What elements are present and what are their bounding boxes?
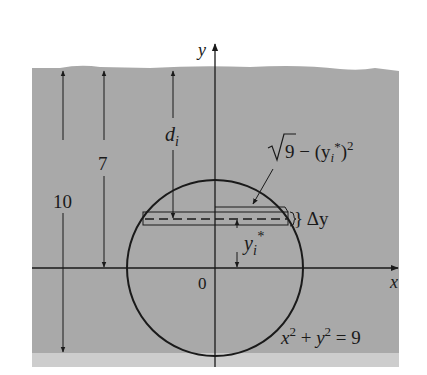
depth-7-label: 7 [98,153,108,174]
svg-text:9 − (yi*)2: 9 − (yi*)2 [285,138,354,165]
origin-label: 0 [198,274,207,293]
delta-y-label: } Δy [294,208,329,229]
depth-10-label: 10 [53,191,72,212]
y-axis-label: y [196,40,206,60]
submerged-plate-diagram: y x 0 10 7 di 9 − (yi*)2 } Δy yi* x2 + y… [0,0,427,375]
x-axis-label: x [389,272,398,292]
